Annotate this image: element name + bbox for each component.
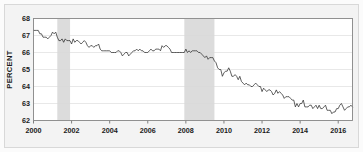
y-tick-label-66: 66 bbox=[22, 48, 30, 57]
x-tick-label-2000: 2000 bbox=[26, 126, 42, 135]
x-tick-label-2006: 2006 bbox=[140, 126, 156, 135]
line-chart: 6263646566676820002002200420062008201020… bbox=[0, 0, 363, 152]
x-tick-label-2004: 2004 bbox=[102, 126, 118, 135]
chart-figure: 6263646566676820002002200420062008201020… bbox=[0, 0, 363, 152]
y-axis-title: PERCENT bbox=[5, 50, 14, 88]
x-tick-label-2008: 2008 bbox=[178, 126, 194, 135]
y-tick-label-67: 67 bbox=[22, 31, 30, 40]
y-tick-label-68: 68 bbox=[22, 14, 30, 23]
x-tick-label-2012: 2012 bbox=[254, 126, 270, 135]
x-tick-label-2010: 2010 bbox=[216, 126, 232, 135]
y-tick-label-64: 64 bbox=[22, 82, 30, 91]
x-tick-label-2016: 2016 bbox=[330, 126, 346, 135]
x-tick-label-2002: 2002 bbox=[64, 126, 80, 135]
y-tick-label-63: 63 bbox=[22, 99, 30, 108]
y-tick-label-65: 65 bbox=[22, 65, 30, 74]
x-tick-label-2014: 2014 bbox=[292, 126, 308, 135]
y-tick-label-62: 62 bbox=[22, 116, 30, 125]
